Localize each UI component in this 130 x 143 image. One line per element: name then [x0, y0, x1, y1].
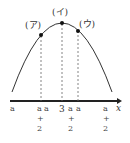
point-i — [60, 21, 64, 25]
tick-a-2: a — [44, 104, 49, 113]
tick-a-plus-2-3-plus: + — [103, 114, 110, 123]
tick-3: 3 — [59, 104, 65, 114]
tick-a-3: a — [76, 104, 81, 113]
point-a — [39, 33, 43, 37]
tick-a-plus-2-1-plus: + — [37, 114, 44, 123]
label-u: (ウ) — [79, 19, 95, 29]
tick-a-plus-2-2-plus: + — [68, 114, 75, 123]
label-i: (イ) — [52, 7, 68, 17]
axis-label-x: x — [116, 103, 121, 113]
tick-a-plus-2-3-two: 2 — [103, 124, 108, 133]
tick-a-plus-2-2-two: 2 — [68, 124, 73, 133]
tick-a-plus-2-1-two: 2 — [37, 124, 42, 133]
tick-a-plus-2-2-a: a — [68, 104, 73, 113]
tick-a-plus-2-1-a: a — [37, 104, 42, 113]
parabola-diagram: (ア) (イ) (ウ) x a a + 2 a 3 a + 2 a a + 2 — [0, 0, 130, 143]
point-u — [76, 29, 80, 33]
tick-a-1: a — [10, 104, 15, 113]
label-a: (ア) — [25, 20, 41, 30]
tick-a-plus-2-3-a: a — [103, 104, 108, 113]
